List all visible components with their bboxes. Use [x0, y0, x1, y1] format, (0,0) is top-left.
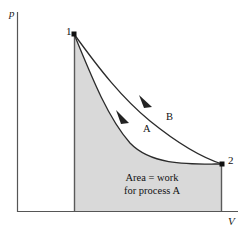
state-label-2: 2	[228, 155, 234, 166]
process-a-direction-arrow	[116, 110, 129, 124]
pv-diagram-canvas	[0, 0, 247, 242]
work-area-annotation: Area = work for process A	[96, 171, 208, 197]
work-area-annotation-line-1: Area = work	[96, 171, 208, 184]
state-1-point-marker	[72, 32, 77, 37]
state-label-1: 1	[66, 26, 72, 37]
curve-label-a: A	[143, 124, 151, 135]
pv-diagram-figure: p V 1 2 A B Area = work for process A	[0, 0, 247, 242]
curve-label-b: B	[166, 112, 173, 123]
process-b-direction-arrow	[139, 95, 152, 108]
state-2-point-marker	[220, 162, 225, 167]
x-axis-label-volume: V	[228, 216, 235, 227]
work-area-annotation-line-2: for process A	[96, 184, 208, 197]
y-axis-label-pressure: p	[9, 8, 15, 19]
